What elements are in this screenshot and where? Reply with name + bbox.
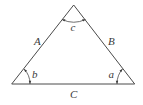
side-b-label: B [108, 35, 115, 47]
side-a-line [12, 5, 74, 84]
angle-a-label: a [109, 68, 115, 80]
angle-b-label: b [32, 68, 38, 80]
side-c-label: C [70, 88, 78, 100]
angle-c-label: c [71, 21, 76, 33]
side-b-line [74, 5, 135, 84]
triangle-diagram: A B C c b a [0, 0, 143, 105]
side-a-label: A [33, 35, 41, 47]
